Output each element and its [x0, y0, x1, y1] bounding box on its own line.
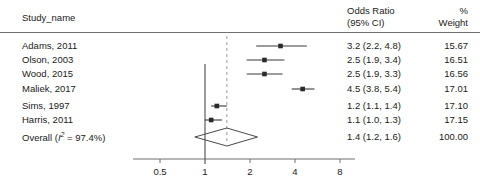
point-estimate-marker: [262, 58, 267, 63]
overall-name: Overall (I2 = 97.4%): [22, 131, 105, 143]
study-odds-ratio-value: 1.1 (1.0, 1.3): [347, 114, 401, 125]
study-row-marker: [256, 44, 307, 49]
study-name: Maliek, 2017: [22, 83, 76, 94]
point-estimate-marker: [215, 104, 220, 109]
overall-odds-ratio-value: 1.4 (1.2, 1.6): [347, 131, 401, 142]
overall-weight-value: 100.00: [400, 131, 468, 142]
x-axis-tick-label: 2: [247, 166, 252, 177]
x-axis-tick-label: 0.5: [153, 166, 166, 177]
x-axis-tick-label: 8: [337, 166, 342, 177]
study-name: Harris, 2011: [22, 114, 73, 125]
x-axis-tick-label: 4: [292, 166, 297, 177]
study-odds-ratio-value: 1.2 (1.1, 1.4): [347, 100, 401, 111]
overall-label-prefix: Overall (: [22, 132, 58, 143]
study-odds-ratio-value: 4.5 (3.8, 5.4): [347, 83, 401, 94]
study-name: Sims, 1997: [22, 100, 70, 111]
study-weight-value: 16.56: [400, 68, 468, 79]
point-estimate-marker: [278, 44, 283, 49]
study-odds-ratio-value: 2.5 (1.9, 3.3): [347, 68, 401, 79]
overall-diamond: [195, 128, 258, 146]
study-row-marker: [205, 118, 222, 123]
study-odds-ratio-value: 2.5 (1.9, 3.4): [347, 54, 401, 65]
study-weight-value: 17.15: [400, 114, 468, 125]
study-row-marker: [292, 87, 315, 92]
study-odds-ratio-value: 3.2 (2.2, 4.8): [347, 40, 401, 51]
study-row-marker: [247, 58, 285, 63]
point-estimate-marker: [262, 72, 267, 77]
point-estimate-marker: [300, 87, 305, 92]
study-weight-value: 16.51: [400, 54, 468, 65]
study-name: Wood, 2015: [22, 68, 73, 79]
x-axis-tick-label: 1: [202, 166, 207, 177]
study-row-marker: [247, 72, 283, 77]
overall-label-suffix: = 97.4%): [64, 132, 105, 143]
study-weight-value: 17.10: [400, 100, 468, 111]
study-name: Olson, 2003: [22, 54, 73, 65]
study-weight-value: 15.67: [400, 40, 468, 51]
study-weight-value: 17.01: [400, 83, 468, 94]
study-name: Adams, 2011: [22, 40, 77, 51]
point-estimate-marker: [209, 118, 214, 123]
study-row-marker: [211, 104, 227, 109]
forest-plot: Study_name Odds Ratio (95% CI) % Weight …: [0, 0, 480, 182]
